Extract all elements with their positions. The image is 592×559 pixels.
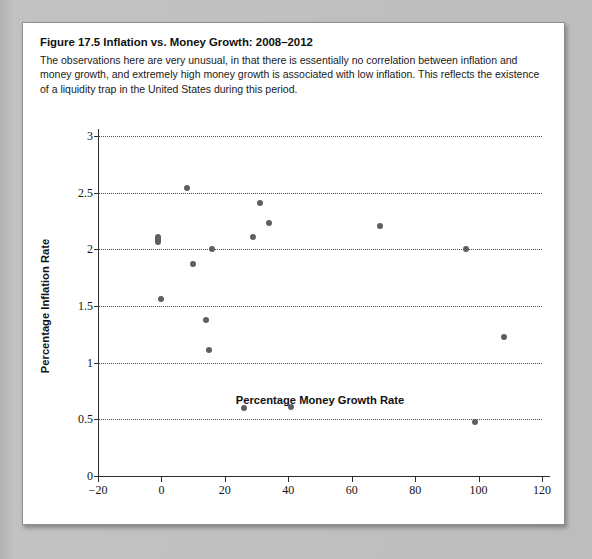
y-tick-mark (94, 419, 98, 420)
data-point (250, 234, 256, 240)
data-point (209, 246, 215, 252)
data-point (184, 185, 190, 191)
x-tick-mark (225, 476, 226, 482)
data-point (377, 223, 383, 229)
y-tick-mark (94, 363, 98, 364)
gridline-y (98, 306, 542, 307)
y-tick-label: 0 (87, 469, 93, 484)
figure-panel: Figure 17.5 Inflation vs. Money Growth: … (22, 22, 565, 525)
y-tick-label: 1.5 (78, 299, 93, 314)
data-point (190, 261, 196, 267)
scatter-chart: 00.511.522.53 −20020406080100120 Percent… (23, 23, 565, 525)
y-tick-label: 2.5 (78, 185, 93, 200)
gridline-y (98, 249, 542, 250)
x-tick-mark (542, 476, 543, 482)
y-tick-mark (94, 249, 98, 250)
x-tick-label: 40 (282, 483, 294, 498)
y-tick-label: 2 (87, 242, 93, 257)
x-tick-mark (98, 476, 99, 482)
gridline-y (98, 136, 542, 137)
x-axis-line (98, 476, 550, 477)
data-point (266, 220, 272, 226)
y-tick-mark (94, 306, 98, 307)
x-tick-label: 120 (533, 483, 551, 498)
x-tick-mark (161, 476, 162, 482)
y-tick-label: 1 (87, 355, 93, 370)
y-tick-mark (94, 136, 98, 137)
x-tick-label: −20 (89, 483, 108, 498)
x-tick-label: 60 (346, 483, 358, 498)
data-point (158, 296, 164, 302)
x-tick-mark (352, 476, 353, 482)
x-tick-label: 80 (409, 483, 421, 498)
y-tick-mark (94, 193, 98, 194)
data-point (472, 419, 478, 425)
gridline-y (98, 193, 542, 194)
data-point (257, 200, 263, 206)
x-tick-mark (479, 476, 480, 482)
data-point (206, 347, 212, 353)
x-tick-mark (415, 476, 416, 482)
x-tick-label: 100 (470, 483, 488, 498)
gridline-y (98, 363, 542, 364)
data-point (463, 246, 469, 252)
x-axis-title: Percentage Money Growth Rate (98, 394, 542, 406)
data-point (203, 317, 209, 323)
x-tick-mark (288, 476, 289, 482)
y-tick-label: 0.5 (78, 412, 93, 427)
plot-area: 00.511.522.53 −20020406080100120 (98, 136, 542, 476)
x-tick-label: 20 (219, 483, 231, 498)
x-tick-label: 0 (158, 483, 164, 498)
y-axis-title: Percentage Inflation Rate (39, 239, 51, 373)
data-point (501, 334, 507, 340)
data-point (155, 234, 161, 245)
y-tick-label: 3 (87, 129, 93, 144)
